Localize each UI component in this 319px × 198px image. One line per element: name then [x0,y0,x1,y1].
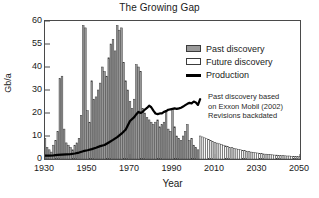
bar [76,143,78,159]
y-tick-label: 40 [20,62,42,71]
x-tick-label: 1930 [27,163,61,173]
bar [286,156,288,159]
bar [68,145,70,159]
bar [199,136,201,159]
bar [78,138,80,159]
y-tick-label: 0 [20,154,42,163]
bar [116,26,118,159]
bar [214,142,216,159]
bar [53,145,55,159]
bar [233,148,235,159]
bar [291,156,293,159]
bar [216,143,218,159]
x-axis-tick-labels: 1930195019701990201020302050 [44,163,301,175]
bar [121,28,123,159]
bar [267,154,269,159]
legend-swatch-past-discovery [186,45,201,52]
bar [176,136,178,159]
bar [106,76,108,159]
bar [284,156,286,159]
bar [74,145,76,159]
legend-label-past-discovery: Past discovery [206,44,265,54]
bar [142,108,144,159]
bar [225,146,227,159]
bar [165,111,167,159]
bar [189,141,191,159]
bar [197,150,199,159]
legend-swatch-future-discovery [186,58,201,65]
legend-swatch-production [186,74,201,77]
bar [206,139,208,159]
bar [89,122,91,159]
y-tick-label: 20 [20,108,42,117]
bar [227,147,229,159]
chart-annotation: Past discovery based on Exxon Mobil (200… [208,92,308,121]
bar [242,150,244,159]
chart-title: The Growing Gap [0,2,319,13]
y-axis-label: Gb/a [3,63,13,103]
bar [246,151,248,159]
bar [274,155,276,159]
bar [278,155,280,159]
bar [180,141,182,159]
legend-item-past-discovery: Past discovery [186,42,298,55]
bar [87,111,89,159]
bar [123,62,125,159]
bar [195,148,197,160]
x-tick-label: 2030 [240,163,274,173]
bar [265,154,267,159]
bar [280,156,282,159]
bar [150,122,152,159]
bar [240,150,242,159]
bar [48,150,50,159]
bar [153,125,155,160]
bar [201,137,203,159]
bar [212,142,214,159]
y-tick-label: 55 [20,39,42,48]
bar [229,147,231,159]
bar [82,26,84,159]
bar [163,122,165,159]
bar [119,30,121,159]
bar [221,145,223,159]
bar [95,97,97,159]
bar [252,152,254,159]
bar [218,144,220,159]
bar [114,51,116,159]
bar [61,76,63,159]
bar [140,72,142,159]
x-tick-label: 1990 [155,163,189,173]
bar [293,156,295,159]
bar [263,154,265,159]
past-discovery-bars [45,26,199,159]
bar [161,125,163,160]
x-axis-label: Year [44,178,301,189]
bar [155,122,157,159]
bar [129,102,131,160]
annotation-line-1: Past discovery based [208,92,308,102]
legend-item-production: Production [186,68,298,81]
bar [204,138,206,159]
bar [148,120,150,159]
bar [178,138,180,159]
bar [91,81,93,159]
bar [297,156,299,159]
bar [125,81,127,159]
bar [257,153,259,159]
bar [99,83,101,159]
y-tick-label: 30 [20,85,42,94]
bar [295,156,297,159]
legend-label-future-discovery: Future discovery [206,57,273,67]
bar [136,65,138,159]
x-tick-label: 2010 [197,163,231,173]
bar [133,99,135,159]
bar [184,131,186,159]
bar [157,120,159,159]
bar [97,90,99,159]
bar [289,156,291,159]
bar [276,155,278,159]
bar [255,153,257,159]
bar [193,145,195,159]
bar [131,108,133,159]
bar [244,151,246,159]
